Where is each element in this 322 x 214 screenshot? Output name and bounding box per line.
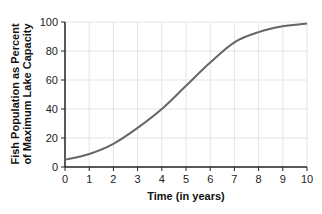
y-tick-label: 60 [46,74,58,86]
y-axis-title-line2: of Maximum Lake Capacity [21,23,33,165]
y-axis-ticks: 020406080100 [40,16,65,173]
y-tick-label: 80 [46,45,58,57]
line-chart: 012345678910 020406080100 Time (in years… [0,0,322,214]
x-tick-label: 3 [135,173,141,185]
x-tick-label: 8 [256,173,262,185]
x-tick-label: 9 [280,173,286,185]
grid-lines [65,22,307,167]
y-tick-label: 40 [46,103,58,115]
x-tick-label: 2 [110,173,116,185]
x-axis-title: Time (in years) [147,190,225,202]
x-tick-label: 1 [86,173,92,185]
x-axis-ticks: 012345678910 [62,167,313,185]
y-tick-label: 100 [40,16,58,28]
y-axis-title-line1: Fish Population as Percent [9,23,21,165]
y-tick-label: 0 [52,161,58,173]
x-tick-label: 4 [159,173,165,185]
x-tick-label: 10 [301,173,313,185]
x-tick-label: 6 [207,173,213,185]
x-tick-label: 7 [231,173,237,185]
x-tick-label: 5 [183,173,189,185]
y-tick-label: 20 [46,132,58,144]
x-tick-label: 0 [62,173,68,185]
